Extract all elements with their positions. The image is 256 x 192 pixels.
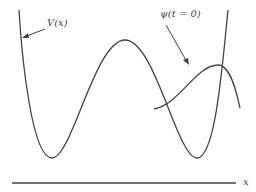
wavefunction-arrow [166, 25, 187, 62]
x-axis-label: x [243, 176, 249, 187]
wavefunction-arrowhead [183, 58, 189, 65]
diagram-canvas [0, 0, 256, 192]
potential-label: V(x) [47, 17, 68, 28]
wavefunction-label: ψ(t = 0) [160, 8, 201, 19]
wavefunction-curve [154, 65, 240, 109]
potential-arrowhead [22, 33, 29, 38]
potential-curve [19, 10, 228, 158]
